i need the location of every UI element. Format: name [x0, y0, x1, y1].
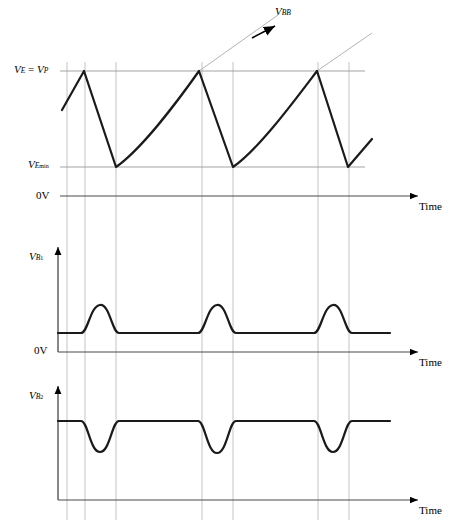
label-time-3: Time — [419, 505, 442, 516]
label-time-1: Time — [419, 201, 442, 212]
label-ve-equals-vp: VE = VP — [14, 64, 48, 75]
emitter-waveform — [62, 71, 372, 167]
label-time-2: Time — [419, 357, 442, 368]
figure-canvas: VE = VP VEmin 0V Time VBB VB1 0V Time VB… — [0, 0, 461, 520]
vbb-guide-lines — [199, 15, 372, 71]
base2-waveform — [58, 421, 390, 453]
vbb-arrow — [252, 26, 275, 38]
panel-base1-voltage — [58, 247, 418, 352]
vertical-gridlines — [67, 62, 349, 520]
label-zero-volt-2: 0V — [34, 345, 47, 356]
panel-emitter-voltage — [60, 15, 418, 196]
label-vb1: VB1 — [29, 251, 43, 262]
base1-waveform — [58, 305, 390, 333]
waveform-figure — [0, 0, 461, 520]
panel-base2-voltage — [58, 386, 418, 500]
label-vbb: VBB — [275, 6, 291, 17]
label-ve-min: VEmin — [28, 159, 49, 170]
label-vb2: VB2 — [29, 390, 43, 401]
label-zero-volt-1: 0V — [36, 190, 49, 201]
